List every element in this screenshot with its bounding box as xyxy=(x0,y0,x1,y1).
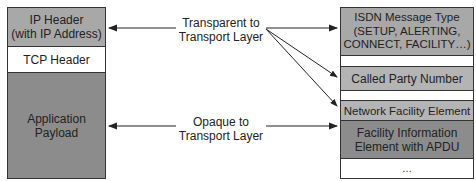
ellipsis-block: … xyxy=(340,158,474,179)
facility-info-line2: Element with APDU xyxy=(355,140,460,154)
application-payload-block: Application Payload xyxy=(7,72,106,179)
message-type-line2: (SETUP, ALERTING, xyxy=(354,25,461,39)
called-party-label: Called Party Number xyxy=(351,72,462,86)
opaque-line2: Transport Layer xyxy=(178,129,264,143)
called-party-number-block: Called Party Number xyxy=(340,66,474,91)
tcp-header-block: TCP Header xyxy=(7,46,106,73)
opaque-line1: Opaque to xyxy=(178,115,264,129)
message-type-line3: CONNECT, FACILITY…) xyxy=(343,38,470,52)
ellipsis-label: … xyxy=(402,162,412,176)
opaque-label: Opaque to Transport Layer xyxy=(178,115,264,143)
message-type-line1: ISDN Message Type xyxy=(354,11,459,25)
payload-line2: Payload xyxy=(35,126,78,140)
ip-header-line2: (with IP Address) xyxy=(11,27,101,41)
ip-header-block: IP Header (with IP Address) xyxy=(7,7,106,47)
network-facility-element-block: Network Facility Element xyxy=(340,100,474,121)
arrow-to-called-party xyxy=(266,29,337,77)
payload-line1: Application xyxy=(27,112,86,126)
tcp-header-label: TCP Header xyxy=(23,53,89,67)
facility-information-block: Facility Information Element with APDU xyxy=(340,120,474,159)
arrow-to-network-facility xyxy=(266,29,337,106)
transparent-label: Transparent to Transport Layer xyxy=(178,16,264,44)
transparent-line2: Transport Layer xyxy=(178,30,264,44)
transparent-line1: Transparent to xyxy=(178,16,264,30)
network-facility-label: Network Facility Element xyxy=(344,104,471,118)
ip-header-line1: IP Header xyxy=(30,13,84,27)
isdn-message-type-block: ISDN Message Type (SETUP, ALERTING, CONN… xyxy=(340,7,474,56)
facility-info-line1: Facility Information xyxy=(357,126,458,140)
